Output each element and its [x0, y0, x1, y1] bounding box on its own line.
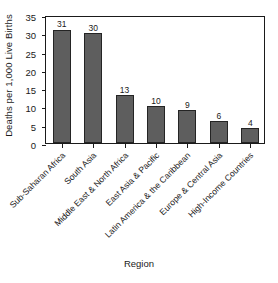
bar-value-label: 4 [248, 119, 253, 128]
x-axis-tick [62, 143, 63, 148]
bar-value-label: 30 [88, 24, 97, 33]
y-axis-tick: 15 [42, 90, 46, 91]
y-axis-tick-label: 35 [25, 13, 36, 23]
x-axis-category-label: Sub-Saharan Africa [8, 151, 67, 210]
bar-value-label: 13 [120, 86, 129, 95]
y-axis-tick: 10 [42, 108, 46, 109]
bar-value-label: 6 [216, 112, 221, 121]
bar-value-label: 10 [151, 97, 160, 106]
plot-area: 05101520253035 31301310964 [45, 16, 265, 144]
x-axis-title: Region [0, 258, 278, 269]
x-axis-tick [187, 143, 188, 148]
y-axis-tick-label: 0 [31, 141, 36, 151]
bar: 4 [241, 128, 259, 143]
y-axis-title: Deaths per 1,000 Live Births [0, 0, 16, 150]
plot-inner: 05101520253035 31301310964 [46, 17, 264, 143]
x-axis-tick [219, 143, 220, 148]
y-axis-tick-label: 20 [25, 68, 36, 78]
x-axis-tick [156, 143, 157, 148]
y-axis-tick: 20 [42, 72, 46, 73]
bar: 30 [84, 33, 102, 143]
x-axis-category-label: High-Income Countries [187, 151, 255, 219]
bar: 31 [53, 30, 71, 143]
y-axis-tick: 30 [42, 35, 46, 36]
bar-chart: Deaths per 1,000 Live Births 05101520253… [0, 0, 278, 283]
x-axis-tick [250, 143, 251, 148]
y-axis-tick: 0 [42, 145, 46, 146]
y-axis-tick-label: 30 [25, 32, 36, 42]
x-axis-title-text: Region [124, 258, 154, 269]
bar: 9 [178, 110, 196, 143]
bar-value-label: 9 [185, 101, 190, 110]
x-axis-tick [93, 143, 94, 148]
y-axis-tick-label: 25 [25, 50, 36, 60]
y-axis-tick: 25 [42, 54, 46, 55]
bar: 13 [116, 95, 134, 143]
y-axis-tick-label: 5 [31, 123, 36, 133]
y-axis-tick: 35 [42, 17, 46, 18]
bar: 10 [147, 106, 165, 143]
bar-value-label: 31 [57, 20, 66, 29]
bar: 6 [210, 121, 228, 143]
y-axis-tick: 5 [42, 127, 46, 128]
y-axis-tick-label: 15 [25, 86, 36, 96]
y-axis-tick-label: 10 [25, 105, 36, 115]
y-axis-title-text: Deaths per 1,000 Live Births [3, 14, 14, 137]
x-axis-tick [125, 143, 126, 148]
